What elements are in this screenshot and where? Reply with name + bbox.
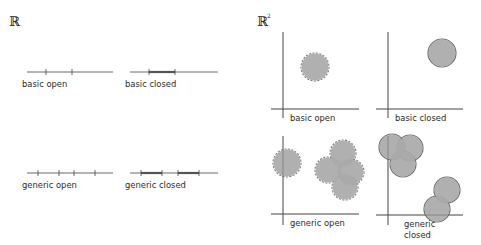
example-label: generic open bbox=[290, 218, 345, 228]
example-label: generic open bbox=[22, 180, 77, 190]
set-region bbox=[425, 197, 450, 222]
title-r2-superscript: 2 bbox=[267, 12, 271, 19]
two-dimensional-examples: basic openbasic closedgeneric opengeneri… bbox=[271, 32, 463, 240]
number-line-basic-closed: basic closed bbox=[125, 69, 218, 89]
set-region bbox=[333, 175, 358, 200]
topology-diagram: ℝ ℝ 2 basic openbasic closedgeneric open… bbox=[0, 0, 481, 245]
plane-basic-closed: basic closed bbox=[376, 32, 463, 123]
example-label: generic bbox=[404, 219, 436, 229]
set-region bbox=[274, 150, 301, 177]
plane-generic-open: generic open bbox=[271, 136, 364, 228]
one-dimensional-examples: basic openbasic closedgeneric opengeneri… bbox=[22, 69, 218, 190]
plane-basic-open: basic open bbox=[271, 32, 359, 123]
example-label: basic closed bbox=[395, 113, 446, 123]
example-label: basic open bbox=[22, 79, 67, 89]
example-label: basic open bbox=[290, 113, 335, 123]
title-r: ℝ bbox=[9, 14, 21, 29]
number-line-basic-open: basic open bbox=[22, 69, 113, 89]
number-line-generic-closed: generic closed bbox=[125, 170, 218, 190]
number-line-generic-open: generic open bbox=[22, 170, 113, 190]
example-label: generic closed bbox=[125, 180, 186, 190]
example-label: closed bbox=[404, 230, 431, 240]
set-region bbox=[429, 40, 456, 67]
set-region bbox=[302, 54, 329, 81]
plane-generic-closed: genericclosed bbox=[376, 134, 463, 240]
set-region bbox=[391, 152, 416, 177]
example-label: basic closed bbox=[125, 79, 176, 89]
